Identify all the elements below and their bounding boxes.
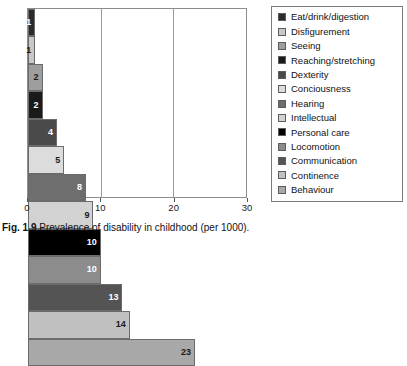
x-axis-tick-label: 20 [168, 202, 179, 213]
legend-item[interactable]: Dexterity [278, 68, 402, 82]
bar-value-label: 23 [181, 348, 194, 357]
x-axis-tick-label: 0 [24, 202, 29, 213]
bar-value-label: 8 [77, 183, 85, 192]
legend-item[interactable]: Intellectual [278, 111, 402, 125]
legend-item-label: Continence [291, 171, 339, 181]
legend-item[interactable]: Disfigurement [278, 24, 402, 38]
bar-row: 2 [28, 64, 246, 91]
legend-swatch-icon [278, 71, 286, 79]
legend-item-label: Dexterity [291, 70, 328, 80]
bar: 2 [28, 91, 43, 118]
legend-swatch-icon [278, 186, 286, 194]
legend-swatch-icon [278, 114, 286, 122]
legend-item-label: Eat/drink/digestion [291, 12, 369, 22]
legend-item-label: Seeing [291, 41, 321, 51]
bar: 1 [28, 36, 35, 63]
bar-series: 112245891010131423 [28, 9, 246, 197]
legend-item-label: Conciousness [291, 84, 351, 94]
bar-value-label: 4 [48, 128, 56, 137]
x-axis-tick-label: 10 [95, 202, 106, 213]
bar-row: 23 [28, 339, 246, 366]
figure-caption: Fig. 1.9 Prevalence of disability in chi… [2, 222, 402, 233]
bar-row: 10 [28, 256, 246, 283]
x-axis-tick-labels: 0102030 [0, 202, 407, 216]
legend-item-label: Reaching/stretching [291, 56, 375, 66]
legend-item[interactable]: Conciousness [278, 82, 402, 96]
bar-row: 14 [28, 311, 246, 338]
legend-item[interactable]: Locomotion [278, 140, 402, 154]
legend-item[interactable]: Personal care [278, 125, 402, 139]
legend-item-label: Hearing [291, 99, 324, 109]
bar-value-label: 13 [108, 293, 121, 302]
bar-value-label: 1 [26, 18, 34, 27]
x-axis-tick-label: 30 [242, 202, 253, 213]
legend-swatch-icon [278, 42, 286, 50]
legend-swatch-icon [278, 85, 286, 93]
bar: 23 [28, 339, 195, 366]
legend-item[interactable]: Seeing [278, 39, 402, 53]
bar: 13 [28, 284, 122, 311]
legend-item[interactable]: Communication [278, 154, 402, 168]
bar: 4 [28, 119, 57, 146]
legend-swatch-icon [278, 128, 286, 136]
legend-swatch-icon [278, 56, 286, 64]
legend-item-label: Personal care [291, 128, 350, 138]
legend-item-label: Disfigurement [291, 27, 350, 37]
bar: 2 [28, 64, 43, 91]
legend-item-label: Behaviour [291, 185, 334, 195]
bar-row: 5 [28, 146, 246, 173]
legend-swatch-icon [278, 100, 286, 108]
legend-item[interactable]: Hearing [278, 96, 402, 110]
legend-swatch-icon [278, 143, 286, 151]
bar-value-label: 2 [34, 73, 42, 82]
bar-row: 13 [28, 284, 246, 311]
legend-item[interactable]: Continence [278, 168, 402, 182]
figure-caption-text: Prevalence of disability in childhood (p… [39, 222, 249, 233]
bar-row: 1 [28, 9, 246, 36]
bar-value-label: 1 [26, 46, 34, 55]
chart-legend: Eat/drink/digestionDisfigurementSeeingRe… [271, 6, 403, 202]
bar-value-label: 5 [55, 156, 63, 165]
legend-swatch-icon [278, 13, 286, 21]
bar-row: 2 [28, 91, 246, 118]
bar-value-label: 10 [87, 238, 100, 247]
legend-item-label: Intellectual [291, 113, 336, 123]
legend-item[interactable]: Eat/drink/digestion [278, 10, 402, 24]
bar: 1 [28, 9, 35, 36]
bar-row: 4 [28, 119, 246, 146]
legend-item-label: Locomotion [291, 142, 340, 152]
legend-item[interactable]: Reaching/stretching [278, 53, 402, 67]
bar: 5 [28, 146, 64, 173]
legend-swatch-icon [278, 28, 286, 36]
chart-plot-area: 112245891010131423 [27, 8, 247, 198]
bar: 10 [28, 256, 101, 283]
figure-number: Fig. 1.9 [2, 222, 36, 233]
bar-value-label: 14 [116, 320, 129, 329]
bar-row: 1 [28, 36, 246, 63]
legend-item[interactable]: Behaviour [278, 183, 402, 197]
bar-value-label: 2 [34, 101, 42, 110]
legend-swatch-icon [278, 157, 286, 165]
legend-item-label: Communication [291, 156, 357, 166]
bar-value-label: 10 [87, 265, 100, 274]
bar: 14 [28, 311, 130, 338]
legend-swatch-icon [278, 171, 286, 179]
